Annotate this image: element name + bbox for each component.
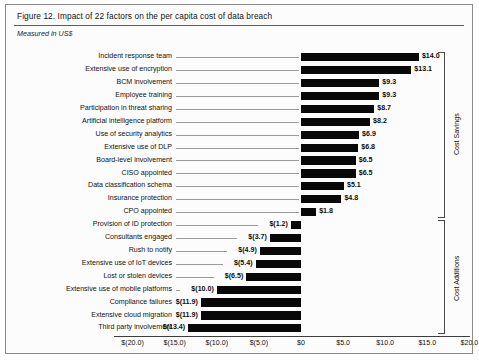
leader-line: [176, 57, 299, 58]
bar-value-label: $(5.4): [234, 259, 253, 268]
x-tick-label: $(20.0): [121, 339, 143, 347]
group-bracket-label: Cost Savings: [453, 114, 461, 156]
bar: [301, 118, 370, 126]
bar-category-label: Compliance failures: [110, 298, 172, 307]
bar-category-label: Rush to notify: [129, 246, 172, 255]
bar-category-label: Extensive use of encryption: [85, 65, 172, 74]
bar-category-label: Extensive use of mobile platforms: [66, 285, 172, 294]
bar-value-label: $(3.7): [248, 233, 267, 242]
bar-row: Board-level involvement$6.5: [6, 154, 474, 167]
bar: [270, 234, 301, 242]
bar-row: Extensive cloud migration$(11.9): [6, 309, 474, 322]
bar-value-label: $8.2: [373, 117, 387, 126]
bar-row: CISO appointed$6.5: [6, 167, 474, 180]
x-tick-label: $(10.0): [206, 339, 228, 347]
bar-row: Use of security analytics$6.9: [6, 128, 474, 141]
bar-category-label: Extensive cloud migration: [91, 311, 172, 320]
bar-category-label: Extensive use of DLP: [104, 143, 172, 152]
bar: [301, 131, 359, 139]
leader-line: [176, 290, 180, 291]
bar-value-label: $1.8: [319, 207, 333, 216]
bar-value-label: $(6.5): [225, 272, 244, 281]
bar-row: Extensive use of DLP$6.8: [6, 141, 474, 154]
bar-row: Artificial intelligence platform$8.2: [6, 116, 474, 129]
bar-row: Participation in threat sharing$8.7: [6, 103, 474, 116]
bar: [201, 311, 301, 319]
leader-line: [176, 173, 299, 174]
bar-row: Lost or stolen devices$(6.5): [6, 270, 474, 283]
bar-category-label: Incident response team: [98, 52, 172, 61]
bar-category-label: Insurance protection: [108, 194, 172, 203]
leader-line: [176, 225, 258, 226]
bar-value-label: $(1.2): [269, 220, 288, 229]
bar: [301, 182, 344, 190]
group-bracket: [438, 52, 445, 218]
leader-line: [176, 122, 299, 123]
bar-row: CPO appointed$1.8: [6, 206, 474, 219]
group-bracket-label: Cost Additions: [453, 256, 461, 301]
bar-category-label: Use of security analytics: [96, 130, 172, 139]
bar: [260, 247, 301, 255]
bar: [217, 286, 301, 294]
bar-category-label: Data classification schema: [88, 181, 172, 190]
x-tick-label: $15.0: [418, 339, 436, 347]
bar-value-label: $6.5: [359, 169, 373, 178]
bar-value-label: $8.7: [377, 104, 391, 113]
leader-line: [176, 186, 299, 187]
leader-line: [176, 277, 214, 278]
bar-category-label: Board-level involvement: [96, 156, 172, 165]
bar-row: Compliance failures$(11.9): [6, 296, 474, 309]
bar: [301, 208, 316, 216]
leader-line: [176, 83, 299, 84]
bar-value-label: $14.0: [422, 52, 440, 61]
x-tick-label: $20.0: [461, 339, 479, 347]
bar: [246, 273, 301, 281]
bar: [301, 169, 356, 177]
bar-value-label: $(4.9): [238, 246, 257, 255]
bar-row: Extensive use of mobile platforms$(10.0): [6, 283, 474, 296]
bar-category-label: Employee training: [115, 91, 172, 100]
bar-category-label: Extensive use of IoT devices: [82, 259, 172, 268]
bar: [301, 53, 419, 61]
bar-value-label: $4.8: [344, 194, 358, 203]
bar-row: BCM involvement$9.3: [6, 77, 474, 90]
bar: [301, 66, 411, 74]
bar-row: Incident response team$14.0: [6, 51, 474, 64]
x-tick-label: $10.0: [376, 339, 394, 347]
bar: [301, 105, 374, 113]
bar-row: Extensive use of IoT devices$(5.4): [6, 258, 474, 271]
bar-value-label: $(11.9): [176, 311, 198, 320]
bar-category-label: Third party involvement: [98, 323, 172, 332]
leader-line: [176, 212, 299, 213]
leader-line: [176, 135, 299, 136]
figure-title: Figure 12. Impact of 22 factors on the p…: [17, 11, 272, 21]
bar-value-label: $(10.0): [191, 285, 213, 294]
title-divider: [14, 25, 464, 26]
bar-chart-plot: Incident response team$14.0Extensive use…: [6, 47, 474, 355]
leader-line: [176, 148, 299, 149]
bar: [301, 144, 358, 152]
bar-value-label: $13.1: [414, 65, 432, 74]
bar-category-label: CISO appointed: [122, 169, 172, 178]
bar-category-label: Participation in threat sharing: [80, 104, 172, 113]
figure-subtitle: Measured in US$: [17, 29, 73, 38]
bar-value-label: $9.3: [382, 91, 396, 100]
leader-line: [176, 109, 299, 110]
bar-row: Employee training$9.3: [6, 90, 474, 103]
bar-value-label: $6.5: [359, 156, 373, 165]
leader-line: [176, 251, 227, 252]
group-bracket: [438, 220, 445, 334]
bar: [301, 195, 341, 203]
bar: [301, 79, 379, 87]
leader-line: [176, 70, 299, 71]
figure-frame: Figure 12. Impact of 22 factors on the p…: [5, 4, 473, 354]
bar: [188, 324, 301, 332]
bar-category-label: Artificial intelligence platform: [82, 117, 172, 126]
leader-line: [176, 160, 299, 161]
x-tick-label: $0: [297, 339, 305, 347]
x-tick-label: $5.0: [336, 339, 350, 347]
x-tick-label: $(5.0): [250, 339, 269, 347]
bar: [301, 156, 356, 164]
bar-category-label: Lost or stolen devices: [103, 272, 172, 281]
bar-value-label: $(13.4): [163, 323, 185, 332]
